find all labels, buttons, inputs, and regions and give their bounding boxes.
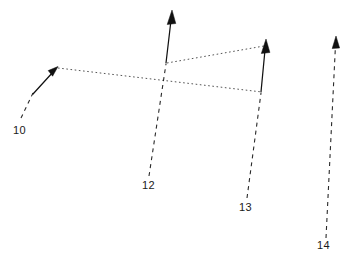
arrow-13	[261, 39, 270, 92]
leader-line-12	[149, 64, 166, 176]
arrow-12	[166, 10, 176, 63]
arrow-10-shaft	[33, 72, 54, 95]
arrow-14	[326, 36, 340, 238]
arrow-12-head	[167, 10, 176, 25]
arrow-14-head	[332, 36, 339, 49]
arrow-13-shaft	[261, 51, 265, 92]
figure-canvas	[0, 0, 350, 274]
arrow-10	[33, 67, 58, 95]
reference-label-12: 12	[142, 179, 155, 191]
reference-label-10: 10	[13, 124, 26, 136]
leader-line-group	[21, 64, 261, 198]
reference-label-14: 14	[317, 239, 330, 251]
dotted-ray-lower	[58, 68, 262, 92]
arrow-14-shaft	[326, 49, 335, 238]
dotted-ray-group	[58, 46, 264, 92]
arrow-10-head	[48, 67, 58, 77]
patent-figure: 10 12 13 14	[0, 0, 350, 274]
leader-line-10	[21, 93, 33, 118]
reference-label-13: 13	[239, 201, 252, 213]
dotted-ray-upper	[167, 46, 264, 63]
arrow-12-shaft	[166, 22, 171, 63]
leader-line-13	[247, 93, 261, 198]
